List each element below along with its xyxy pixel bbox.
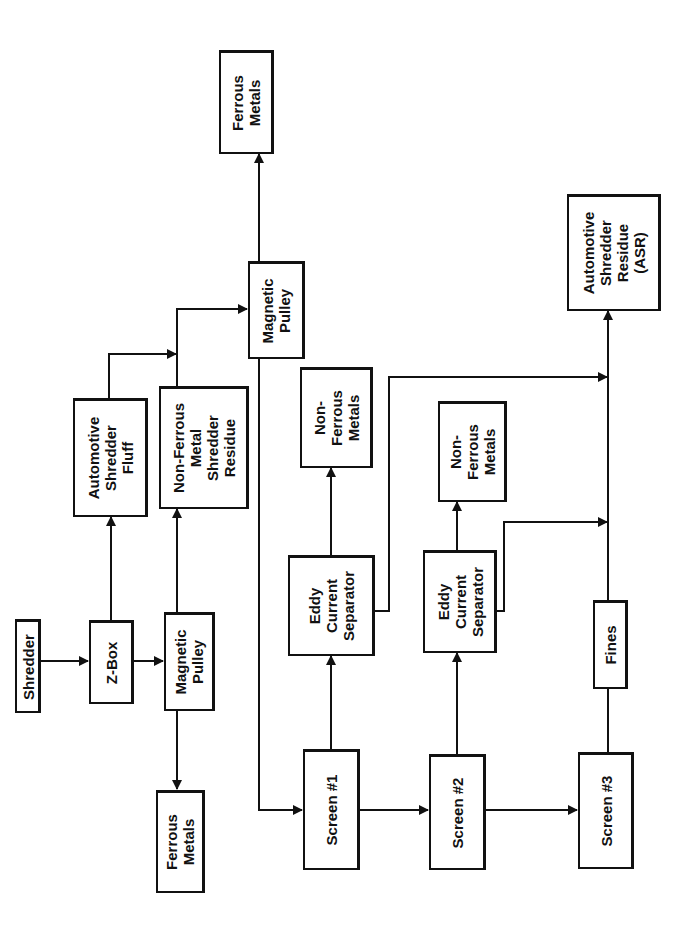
node-label: Z-Box (103, 641, 120, 684)
node-eddy-current-separator-2: Eddy Current Separator (423, 550, 497, 653)
node-label: Ferrous Metals (229, 75, 263, 131)
node-label: Eddy Current Separator (306, 571, 357, 641)
node-automotive-shredder-fluff: Automotive Shredder Fluff (73, 398, 148, 517)
node-label: Non-Ferrous Metal Shredder Residue (170, 403, 238, 493)
node-fines: Fines (593, 600, 628, 689)
node-label: Screen #1 (323, 775, 340, 846)
flow-diagram: Shredder Z-Box Magnetic Pulley Ferrous M… (0, 0, 695, 931)
node-magnetic-pulley-2: Magnetic Pulley (248, 261, 305, 359)
node-label: Magnetic Pulley (259, 278, 293, 343)
node-label: Non- Ferrous Metals (447, 424, 498, 480)
node-ferrous-metals-1: Ferrous Metals (156, 790, 205, 893)
node-non-ferrous-metals-2: Non- Ferrous Metals (438, 401, 507, 502)
node-label: Non- Ferrous Metals (311, 390, 362, 446)
node-label: Magnetic Pulley (172, 629, 206, 694)
node-shredder: Shredder (15, 619, 41, 713)
node-screen-1: Screen #1 (303, 749, 360, 870)
node-label: Automotive Shredder Residue (ASR) (580, 212, 648, 295)
edge-ecs2-asr (496, 522, 607, 611)
node-label: Shredder (19, 634, 36, 700)
node-label: Fines (602, 625, 619, 664)
node-automotive-shredder-residue: Automotive Shredder Residue (ASR) (567, 194, 661, 311)
node-screen-2: Screen #2 (429, 754, 486, 870)
node-screen-3: Screen #3 (578, 752, 634, 869)
node-ferrous-metals-2: Ferrous Metals (219, 50, 274, 154)
node-label: Eddy Current Separator (434, 567, 485, 637)
node-label: Screen #2 (449, 777, 466, 848)
node-eddy-current-separator-1: Eddy Current Separator (288, 555, 375, 656)
node-zbox: Z-Box (89, 620, 134, 704)
node-non-ferrous-metal-shredder-residue: Non-Ferrous Metal Shredder Residue (159, 386, 249, 509)
node-label: Automotive Shredder Fluff (85, 417, 136, 500)
node-non-ferrous-metals-1: Non- Ferrous Metals (300, 367, 373, 468)
edge-nfmsr-magpulley2 (177, 309, 247, 386)
node-label: Screen #3 (597, 776, 614, 847)
node-label: Ferrous Metals (163, 814, 197, 870)
node-magnetic-pulley-1: Magnetic Pulley (164, 612, 215, 711)
